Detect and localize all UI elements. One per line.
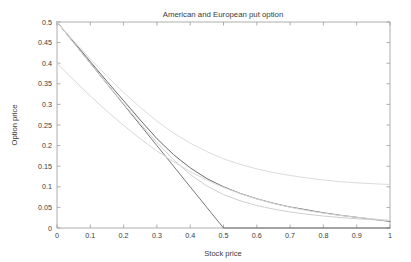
x-tick-label: 0.5 xyxy=(219,231,229,240)
x-tick-label: 0.6 xyxy=(252,231,262,240)
axes-box xyxy=(57,22,390,228)
y-tick-label: 0 xyxy=(48,224,52,233)
y-axis-ticks: 00.050.10.150.20.250.30.350.40.450.5 xyxy=(38,18,390,233)
series-line-3 xyxy=(57,22,390,185)
y-tick-label: 0.3 xyxy=(42,100,52,109)
y-tick-label: 0.15 xyxy=(38,162,52,171)
y-tick-label: 0.05 xyxy=(38,203,52,212)
y-axis-label: Option price xyxy=(10,105,19,146)
y-tick-label: 0.35 xyxy=(38,79,52,88)
x-tick-label: 1 xyxy=(388,231,392,240)
x-tick-label: 0.2 xyxy=(119,231,129,240)
series-line-0 xyxy=(57,22,390,228)
series-line-1 xyxy=(57,22,390,221)
series-line-2 xyxy=(57,22,390,221)
x-tick-label: 0.8 xyxy=(318,231,328,240)
y-tick-label: 0.1 xyxy=(42,182,52,191)
chart-title: American and European put option xyxy=(163,10,284,19)
x-tick-label: 0.4 xyxy=(185,231,195,240)
chart-figure: American and European put option 00.10.2… xyxy=(0,0,411,262)
y-tick-label: 0.25 xyxy=(38,121,52,130)
x-tick-label: 0.3 xyxy=(152,231,162,240)
x-tick-label: 0.9 xyxy=(352,231,362,240)
put-option-line-chart: American and European put option 00.10.2… xyxy=(0,0,411,262)
x-axis-ticks: 00.10.20.30.40.50.60.70.80.91 xyxy=(55,22,392,240)
axes-frame xyxy=(57,22,390,228)
y-tick-label: 0.4 xyxy=(42,59,52,68)
series-group xyxy=(57,22,390,228)
x-tick-label: 0 xyxy=(55,231,59,240)
y-tick-label: 0.5 xyxy=(42,18,52,27)
x-tick-label: 0.1 xyxy=(85,231,95,240)
y-tick-label: 0.45 xyxy=(38,38,52,47)
y-tick-label: 0.2 xyxy=(42,141,52,150)
x-tick-label: 0.7 xyxy=(285,231,295,240)
x-axis-label: Stock price xyxy=(204,249,242,258)
series-line-4 xyxy=(57,63,390,220)
